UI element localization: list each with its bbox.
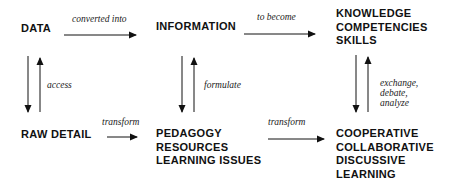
node-label: COMPETENCIES (336, 21, 428, 35)
node-label: LEARNING (336, 168, 434, 182)
node-raw-detail: RAW DETAIL (21, 128, 92, 142)
node-label: COLLABORATIVE (336, 141, 434, 155)
node-label: RESOURCES (156, 141, 261, 155)
edge-label-line: debate, (380, 88, 418, 98)
node-label: DATA (21, 22, 51, 36)
node-data: DATA (21, 22, 51, 36)
edge-label-transform-1: transform (102, 117, 139, 127)
edge-label-converted-into: converted into (72, 14, 127, 24)
edge-label-to-become: to become (257, 12, 296, 22)
edge-label-line: analyze (380, 98, 418, 108)
node-cooperative: COOPERATIVE COLLABORATIVE DISCUSSIVE LEA… (336, 127, 434, 181)
node-knowledge: KNOWLEDGE COMPETENCIES SKILLS (336, 7, 428, 48)
edge-label-access: access (47, 80, 72, 90)
node-label: DISCUSSIVE (336, 154, 434, 168)
node-label: LEARNING ISSUES (156, 154, 261, 168)
node-label: INFORMATION (156, 20, 236, 34)
node-pedagogy: PEDAGOGY RESOURCES LEARNING ISSUES (156, 127, 261, 168)
node-label: KNOWLEDGE (336, 7, 428, 21)
node-label: SKILLS (336, 34, 428, 48)
node-label: PEDAGOGY (156, 127, 261, 141)
edge-label-transform-2: transform (268, 117, 305, 127)
edge-label-formulate: formulate (204, 80, 241, 90)
edge-label-line: exchange, (380, 78, 418, 88)
node-label: RAW DETAIL (21, 128, 92, 142)
node-label: COOPERATIVE (336, 127, 434, 141)
node-information: INFORMATION (156, 20, 236, 34)
edge-label-exchange-debate-analyze: exchange, debate, analyze (380, 78, 418, 108)
